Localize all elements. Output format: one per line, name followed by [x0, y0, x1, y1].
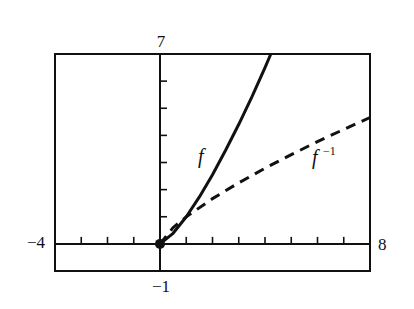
f-inverse-exponent: −1 — [323, 144, 336, 158]
f-inverse-label: f — [312, 146, 320, 169]
series-f-inverse — [160, 118, 370, 244]
ymax-label: 7 — [157, 32, 166, 51]
ymin-label: −1 — [152, 277, 170, 296]
chart: 7 −1 −4 8 f f −1 — [0, 0, 414, 309]
series-f — [160, 54, 271, 244]
point-origin — [155, 239, 165, 249]
xmax-label: 8 — [378, 235, 387, 254]
f-label: f — [198, 145, 206, 168]
xmin-label: −4 — [27, 233, 46, 252]
